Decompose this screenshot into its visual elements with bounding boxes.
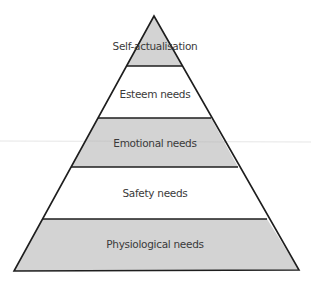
label-emotional-needs: Emotional needs	[113, 137, 196, 149]
label-esteem-needs: Esteem needs	[120, 88, 191, 100]
label-safety-needs: Safety needs	[122, 187, 187, 199]
label-physiological-needs: Physiological needs	[106, 238, 203, 250]
needs-pyramid-diagram: Self-actualisation Esteem needs Emotiona…	[0, 0, 311, 281]
label-self-actualisation: Self-actualisation	[113, 40, 198, 52]
